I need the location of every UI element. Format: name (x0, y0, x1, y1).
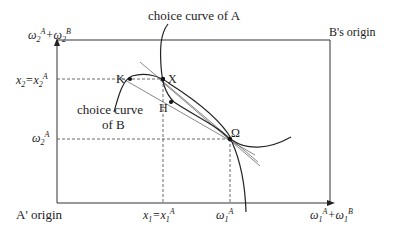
point-k (128, 77, 132, 81)
point-x (161, 77, 165, 81)
x1-label: x1=x1A (143, 208, 175, 224)
choice-curve-a-label: choice curve of A (148, 9, 240, 22)
axis-x-arrow-icon (327, 200, 335, 206)
omega2a-label: ω2A (32, 131, 49, 147)
b-origin-label: B's origin (329, 26, 376, 38)
bottom-right-axis-label: ω1A+ω1B (310, 208, 353, 224)
point-omega-label: Ω (231, 127, 240, 139)
choice-curve-b-label-2: of B (102, 118, 125, 131)
point-h (169, 100, 173, 104)
point-h-label: H (159, 102, 168, 114)
x2-label: x2=x2A (16, 73, 48, 89)
choice-curve-a (161, 24, 246, 212)
choice-curve-b-label-1: choice curve (77, 103, 143, 116)
omega1a-label: ω1A (216, 208, 233, 224)
point-k-label: K (116, 73, 125, 85)
point-x-label: X (168, 73, 177, 85)
a-origin-label: A' origin (16, 208, 62, 221)
budget-line-3 (160, 80, 260, 166)
top-left-axis-label: ω2A+ω2B (28, 28, 71, 44)
